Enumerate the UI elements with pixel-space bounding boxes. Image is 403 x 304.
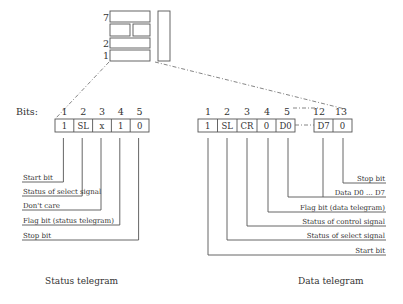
status-label: Flag bit (status telegram)	[23, 217, 114, 225]
status-label: Status of select signal	[23, 188, 102, 196]
stack-row-7	[110, 11, 150, 22]
data-bit-number: 3	[244, 106, 250, 117]
status-bit-number: 4	[118, 106, 124, 117]
data-label: Data D0 ... D7	[335, 189, 385, 197]
status-bit-number: 2	[80, 106, 86, 117]
data-cell: D7	[317, 121, 329, 131]
data-cell: SL	[222, 121, 234, 131]
status-telegram: Bits: 12345 1SLx10 Start bitStatus of se…	[16, 106, 149, 286]
data-label: Start bit	[355, 247, 385, 255]
data-label: Status of select signal	[307, 232, 386, 240]
status-caption: Status telegram	[45, 276, 119, 286]
stack-label-7: 7	[103, 12, 109, 23]
data-label: Stop bit	[357, 175, 385, 183]
data-cell: CR	[241, 121, 255, 131]
status-bit-number: 1	[61, 106, 67, 117]
status-cell: 1	[118, 121, 123, 131]
data-label: Flag bit (data telegram)	[300, 204, 385, 212]
stack-row-1	[110, 50, 150, 61]
data-cell: 0	[264, 121, 269, 131]
stack-label-2: 2	[103, 38, 109, 49]
data-bit-number: 2	[224, 106, 230, 117]
stack-row-2	[110, 38, 150, 48]
status-bit-number: 3	[99, 106, 105, 117]
stack-label-1: 1	[103, 50, 109, 61]
register-stack: 7 2 1	[103, 11, 170, 61]
status-cell: SL	[77, 121, 89, 131]
status-label: Start bit	[23, 174, 53, 182]
data-bit-number: 4	[264, 106, 270, 117]
data-telegram: 123451213 1SLCR0D0D70 Stop bitData D0 ..…	[198, 106, 386, 286]
stack-row-split-left	[110, 24, 130, 36]
status-cell: x	[100, 121, 105, 131]
bits-prefix: Bits:	[16, 106, 38, 117]
telegram-diagram: 7 2 1 Bits: 12345 1SLx10 Start bitStatus…	[0, 0, 403, 304]
data-bit-number: 1	[205, 106, 211, 117]
data-bit-number: 5	[284, 106, 290, 117]
data-bit-number: 13	[335, 106, 347, 117]
data-cell: 1	[205, 121, 210, 131]
status-label: Stop bit	[23, 232, 51, 240]
status-cell: 1	[62, 121, 67, 131]
data-cell: 0	[340, 121, 345, 131]
data-caption: Data telegram	[298, 276, 364, 286]
status-bit-number: 5	[137, 106, 143, 117]
status-cell: 0	[137, 121, 142, 131]
status-label: Don't care	[23, 202, 60, 210]
stack-row-split-right	[133, 24, 150, 36]
stack-side-bar	[158, 11, 170, 61]
connector-to-data	[155, 62, 345, 109]
data-cell: D0	[279, 121, 291, 131]
data-label: Status of control signal	[302, 218, 385, 226]
